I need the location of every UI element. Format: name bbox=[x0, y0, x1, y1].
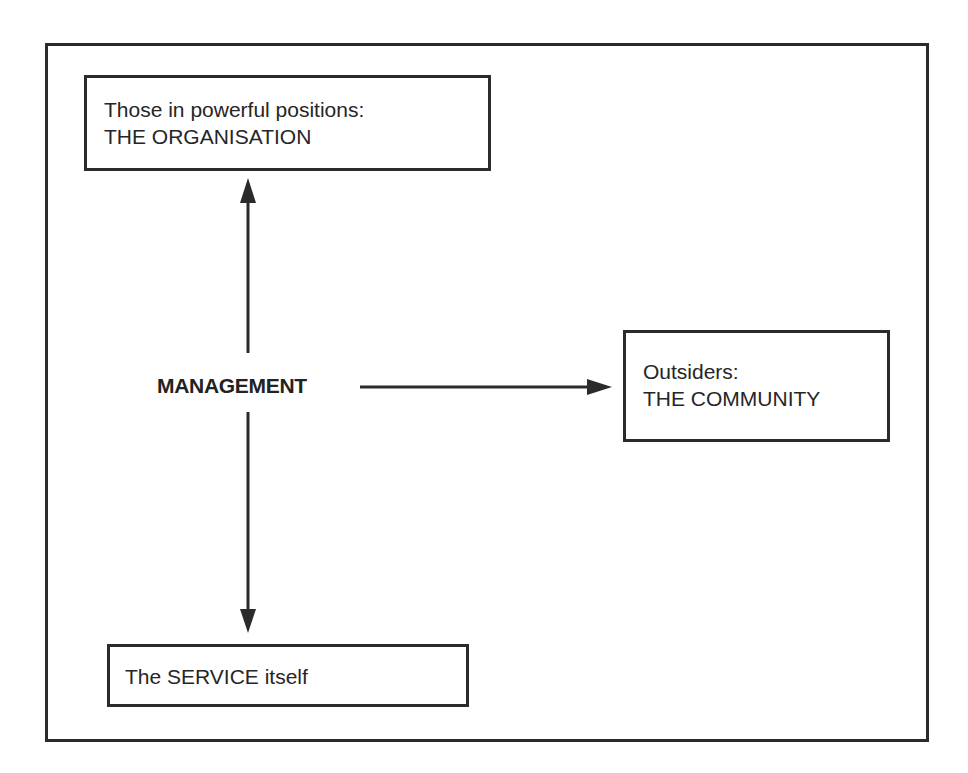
organisation-box: Those in powerful positions: THE ORGANIS… bbox=[84, 75, 491, 171]
community-box-title: THE COMMUNITY bbox=[643, 385, 887, 412]
management-label: MANAGEMENT bbox=[157, 374, 307, 398]
service-box-title: The SERVICE itself bbox=[125, 663, 466, 690]
service-box: The SERVICE itself bbox=[107, 644, 469, 707]
organisation-box-title: THE ORGANISATION bbox=[104, 123, 488, 150]
organisation-box-heading: Those in powerful positions: bbox=[104, 96, 488, 123]
community-box: Outsiders: THE COMMUNITY bbox=[623, 330, 890, 442]
community-box-heading: Outsiders: bbox=[643, 358, 887, 385]
